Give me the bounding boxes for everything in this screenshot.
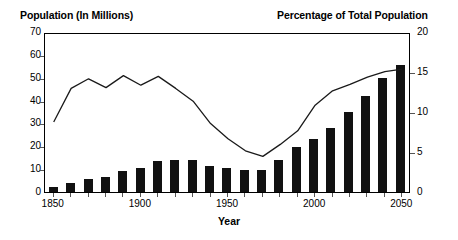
left-tick-10: 10 <box>30 163 41 174</box>
right-tick-0: 0 <box>417 186 423 197</box>
left-tick-20: 20 <box>30 140 41 151</box>
right-tick-15: 15 <box>417 66 428 77</box>
x-tick-1850: 1850 <box>39 198 67 209</box>
x-tick-1950: 1950 <box>213 198 241 209</box>
x-tick-2000: 2000 <box>300 198 328 209</box>
left-tick-50: 50 <box>30 72 41 83</box>
left-tick-30: 30 <box>30 117 41 128</box>
right-tick-5: 5 <box>417 146 423 157</box>
percentage-line <box>54 69 403 156</box>
x-axis-title: Year <box>0 215 458 227</box>
line-series <box>45 34 411 194</box>
left-tick-60: 60 <box>30 49 41 60</box>
left-tick-40: 40 <box>30 95 41 106</box>
chart-container: Population (In Millions) Percentage of T… <box>0 0 458 240</box>
left-tick-70: 70 <box>30 26 41 37</box>
left-axis-title: Population (In Millions) <box>20 9 133 21</box>
plot-area <box>44 33 410 193</box>
left-tick-0: 0 <box>35 186 41 197</box>
x-tick-2050: 2050 <box>387 198 415 209</box>
right-tick-20: 20 <box>417 26 428 37</box>
x-tick-1900: 1900 <box>126 198 154 209</box>
right-tick-10: 10 <box>417 106 428 117</box>
right-axis-title: Percentage of Total Population <box>277 9 428 21</box>
